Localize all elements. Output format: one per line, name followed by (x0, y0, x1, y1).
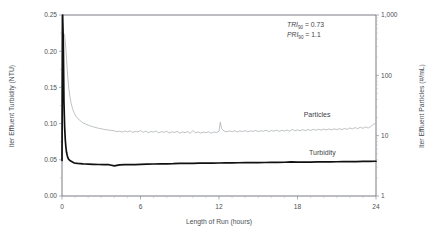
y2-axis-title: lter Effluent Particles (#/mL) (418, 64, 426, 148)
x-tick-label: 18 (294, 203, 302, 210)
y-axis-title: lter Effluent Turbidity (NTU) (8, 65, 16, 147)
y-tick-label: 0.15 (44, 84, 57, 91)
series-label-particles: Particles (304, 111, 331, 118)
x-axis-title: Length of Run (hours) (186, 218, 252, 226)
dual-axis-line-chart: 0.000.050.100.150.200.25 1101001,000 061… (0, 0, 436, 237)
y2-tick-label: 100 (381, 72, 392, 79)
y2-tick-label: 10 (381, 132, 389, 139)
x-tick-label: 24 (372, 203, 380, 210)
y-tick-label: 0.10 (44, 120, 57, 127)
x-tick-label: 12 (215, 203, 223, 210)
series-label-turbidity: Turbidity (309, 149, 336, 157)
chart-background (0, 0, 436, 237)
x-tick-label: 6 (139, 203, 143, 210)
x-tick-label: 0 (60, 203, 64, 210)
y-tick-label: 0.25 (44, 11, 57, 18)
y2-tick-label: 1 (381, 192, 385, 199)
y-tick-label: 0.20 (44, 48, 57, 55)
y-tick-label: 0.00 (44, 192, 57, 199)
y-tick-label: 0.05 (44, 156, 57, 163)
chart-container: 0.000.050.100.150.200.25 1101001,000 061… (0, 0, 436, 237)
y2-tick-label: 1,000 (381, 11, 398, 18)
